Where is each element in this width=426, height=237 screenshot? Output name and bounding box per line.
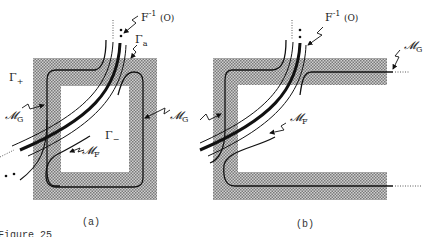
pointer-gamma-a: [131, 45, 137, 58]
mg-label-b: 𝓜G: [404, 40, 422, 51]
mg-left-label: 𝓜G: [5, 110, 23, 121]
preimage-label-a: F-1 (O): [141, 12, 174, 23]
pointer-preimage-a: [124, 16, 138, 33]
pointer-preimage-b: [308, 27, 323, 45]
figure-caption: Figure 25: [0, 231, 52, 237]
shaded-region-a: [33, 58, 157, 200]
panel-b: [200, 20, 422, 200]
diagram-canvas: [0, 0, 426, 237]
pointer-mf-b: [270, 123, 286, 133]
preimage-label-b: F-1 (O): [325, 12, 358, 23]
gamma-minus-label: Γ−: [105, 130, 119, 141]
figure-25: F-1 (O) Γa Γ+ 𝓜G Γ− 𝓜F 𝓜G (a) F-1 (O) 𝓜G…: [0, 0, 426, 237]
gamma-plus-label: Γ+: [9, 72, 23, 83]
gamma-a-label: Γa: [135, 34, 147, 45]
mf-label-a: 𝓜F: [82, 145, 100, 156]
mf-label-b: 𝓜F: [290, 112, 308, 123]
pointer-mg-b: [393, 50, 400, 69]
mg-right-label: 𝓜G: [170, 110, 188, 121]
panel-b-label: (b): [296, 220, 314, 230]
panel-a-label: (a): [82, 218, 100, 228]
